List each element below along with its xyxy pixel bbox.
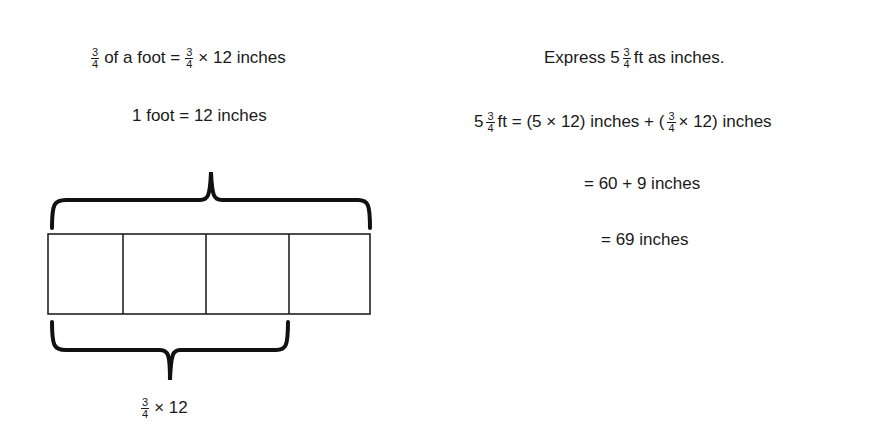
denominator: 4 (623, 59, 631, 70)
denominator: 4 (667, 123, 675, 134)
top-brace (52, 172, 370, 228)
solution-step-2: = 60 + 9 inches (584, 174, 700, 194)
bottom-brace (52, 322, 288, 380)
step-text: = 69 inches (601, 230, 688, 250)
whole-number: 5 (474, 112, 483, 132)
tape-diagram (0, 0, 870, 445)
denominator: 4 (141, 409, 149, 420)
fraction-three-fourths: 3 4 (141, 397, 149, 420)
denominator: 4 (486, 123, 494, 134)
title-text: Express 5 (544, 48, 620, 68)
solution-step-1: 5 3 4 ft = (5 × 12) inches + ( 3 4 × 12)… (474, 110, 772, 133)
label-text: × 12 (154, 398, 188, 418)
fraction-three-fourths: 3 4 (623, 47, 631, 70)
fraction-three-fourths: 3 4 (486, 111, 494, 134)
title-text: ft as inches. (634, 48, 725, 68)
step-text: ft = (5 × 12) inches + ( (498, 112, 665, 132)
bottom-brace-label: 3 4 × 12 (138, 396, 190, 419)
solution-step-3: = 69 inches (601, 230, 688, 250)
fraction-three-fourths: 3 4 (667, 111, 675, 134)
step-text: × 12) inches (679, 112, 772, 132)
problem-title: Express 5 3 4 ft as inches. (544, 46, 724, 69)
tape-bar (48, 234, 370, 314)
step-text: = 60 + 9 inches (584, 174, 700, 194)
